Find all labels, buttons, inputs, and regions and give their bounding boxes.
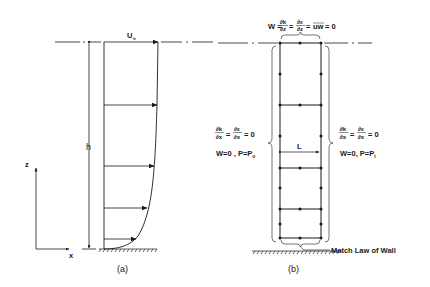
ground-hatch (99, 249, 157, 252)
right-pressure-condition: W=0, P=Pi (340, 149, 376, 159)
law-of-wall-label: Match Law of Wall (331, 246, 396, 255)
svg-text:=: = (289, 22, 294, 31)
svg-text:= 0: = 0 (244, 130, 255, 139)
x-axis-label: x (69, 251, 74, 260)
svg-text:∂ε: ∂ε (234, 126, 240, 132)
left-pressure-condition: W=0 , P=Po (216, 149, 255, 159)
height-label: h (86, 142, 91, 152)
svg-text:∂k: ∂k (216, 126, 223, 132)
wall-leader-line (301, 247, 331, 250)
bottom-brace (281, 240, 320, 247)
right-brace (325, 46, 333, 242)
left-boundary-condition: ∂k ∂x = ∂ε ∂x = 0 W=0 , P=Po (215, 126, 255, 159)
panel-b: L W = ∂k ∂z = ∂ε ∂z = uw = 0 ∂k (215, 19, 396, 274)
figure: h U∞ z x (a) (0, 0, 430, 287)
svg-text:=: = (306, 22, 311, 31)
svg-text:∂ε: ∂ε (297, 19, 303, 25)
svg-text:=: = (226, 130, 231, 139)
panel-a-caption: (a) (117, 264, 128, 274)
right-boundary-condition: ∂k ∂x = ∂ε ∂x = 0 W=0, P=Pi (339, 126, 379, 159)
top-boundary-condition: W = ∂k ∂z = ∂ε ∂z = uw = 0 (268, 19, 336, 32)
svg-text:∂ε: ∂ε (358, 126, 364, 132)
svg-text:∂x: ∂x (216, 134, 223, 140)
velocity-profile-curve (104, 42, 158, 249)
grid-nodes (279, 42, 323, 240)
z-axis-label: z (25, 160, 29, 169)
svg-text:∂z: ∂z (280, 26, 286, 32)
coordinate-axes (36, 168, 69, 249)
svg-text:∂k: ∂k (340, 126, 347, 132)
diagram-canvas: h U∞ z x (a) (0, 0, 430, 287)
freestream-velocity-label: U∞ (127, 31, 136, 41)
width-label: L (297, 142, 302, 151)
svg-text:∂x: ∂x (358, 134, 365, 140)
left-brace (268, 46, 276, 242)
svg-text:= 0: = 0 (325, 22, 336, 31)
panel-a: h U∞ z x (a) (25, 31, 158, 274)
panel-b-caption: (b) (288, 264, 299, 274)
svg-text:∂x: ∂x (234, 134, 241, 140)
svg-text:= 0: = 0 (368, 130, 379, 139)
top-brace (281, 32, 320, 39)
svg-text:uw: uw (313, 22, 324, 31)
ground-hatch-b (252, 251, 342, 254)
svg-text:=: = (350, 130, 355, 139)
svg-text:∂z: ∂z (297, 26, 303, 32)
velocity-arrows (104, 42, 158, 239)
free-surface-dashdot-line (55, 42, 372, 43)
svg-text:∂x: ∂x (340, 134, 347, 140)
svg-text:∂k: ∂k (280, 19, 287, 25)
